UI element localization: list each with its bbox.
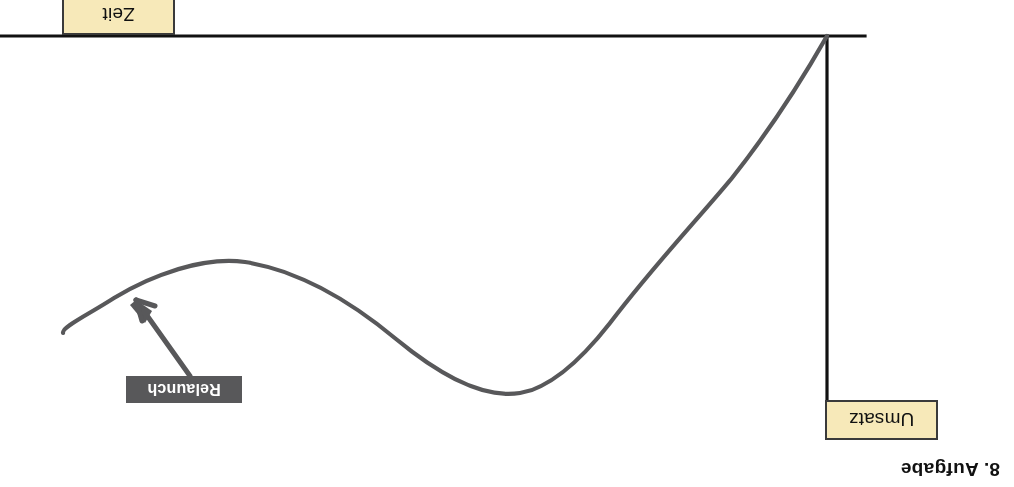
task-caption: 8. Aufgabe <box>901 458 1000 480</box>
relaunch-arrow <box>130 300 190 376</box>
relaunch-callout-box: Relaunch <box>126 376 242 403</box>
screenshot-canvas: Zeit Umsatz Relaunch 8. Aufgabe <box>0 0 1014 487</box>
y-axis-label-box: Umsatz <box>825 400 938 440</box>
x-axis-label-text: Zeit <box>102 6 134 25</box>
scanned-page-rotated-180: Zeit Umsatz Relaunch 8. Aufgabe <box>0 0 1014 487</box>
revenue-curve <box>63 36 827 394</box>
y-axis-label-text: Umsatz <box>849 411 915 430</box>
x-axis-label-box: Zeit <box>62 0 175 35</box>
relaunch-callout-text: Relaunch <box>147 381 221 399</box>
